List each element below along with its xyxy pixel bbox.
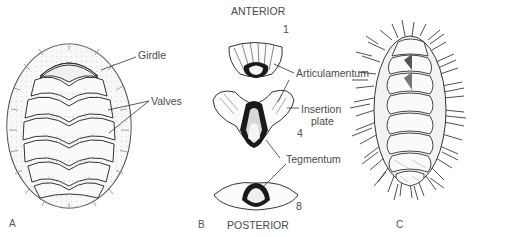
panel-c-chiton [350, 20, 466, 200]
posterior-label: POSTERIOR [227, 219, 289, 231]
valve-number-1: 1 [283, 23, 289, 35]
valve-1 [229, 42, 282, 78]
panel-a-chiton [7, 44, 149, 208]
valves-label: Valves [151, 95, 182, 107]
valve-number-8: 8 [296, 200, 302, 212]
tegmentum-label: Tegmentum [286, 153, 341, 165]
anterior-label: ANTERIOR [231, 5, 285, 17]
girdle-label: Girdle [138, 49, 166, 61]
panel-b-valves [213, 42, 299, 210]
insertion-plate-label-line2: plate [311, 115, 334, 127]
panel-b-label: B [198, 219, 205, 231]
valve-number-4: 4 [297, 127, 303, 139]
valve-8 [214, 183, 298, 211]
panel-a-label: A [9, 218, 16, 230]
insertion-plate-label-line1: Insertion [301, 103, 341, 115]
panel-c-label: C [396, 219, 403, 231]
articulamentum-label: Articulamentum [296, 67, 369, 79]
chiton-diagram [0, 0, 529, 237]
valve-4 [213, 90, 294, 148]
tegmentum-leader-line [266, 140, 280, 158]
